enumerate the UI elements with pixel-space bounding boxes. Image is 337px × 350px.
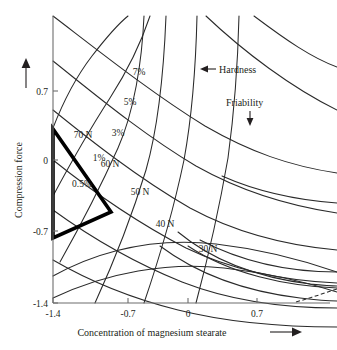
x-tick-label: -1.4 xyxy=(45,309,60,319)
contour-label-70n: 70 N xyxy=(74,130,93,140)
y-tick-label: 0 xyxy=(43,156,48,166)
y-axis-direction-arrow-head xyxy=(22,58,31,68)
hardness-contour-line xyxy=(206,16,337,110)
contour-label-30n: 30 N xyxy=(199,244,218,254)
x-axis-title: Concentration of magnesium stearate xyxy=(77,327,227,338)
y-tick-label: 0.7 xyxy=(36,87,48,97)
lower-arch-contour-group xyxy=(53,232,337,301)
y-tick-label: -1.4 xyxy=(33,299,48,309)
friability-annotation: Friability xyxy=(226,97,263,126)
hardness-contour-line xyxy=(222,176,337,203)
y-tick-labels: 0.7 0 -0.7 -1.4 xyxy=(33,87,48,309)
contour-label-3pct: 3% xyxy=(112,128,125,138)
hardness-contour-line xyxy=(254,16,337,67)
friability-contour-line xyxy=(144,16,197,303)
contour-label-1pct: 1% xyxy=(93,153,106,163)
x-axis-direction-arrow-head xyxy=(292,328,302,337)
contour-label-0p5pct: 0.5% xyxy=(72,179,92,189)
x-tick-label: 0 xyxy=(186,309,191,319)
hardness-annotation: Hardness xyxy=(200,64,256,75)
y-axis-title-group: Compression force xyxy=(13,58,30,218)
friability-contour-line xyxy=(196,16,239,303)
x-tick-label: -0.7 xyxy=(120,309,135,319)
hardness-contour-line xyxy=(53,110,337,250)
friability-contour-group xyxy=(53,16,239,303)
plot-canvas: -1.4 -0.7 0 0.7 0.7 0 -0.7 -1.4 70 N 60 … xyxy=(0,0,337,350)
contour-label-7pct: 7% xyxy=(133,67,146,77)
contour-label-5pct: 5% xyxy=(124,97,137,107)
x-tick-label: 0.7 xyxy=(251,309,263,319)
friability-annotation-label: Friability xyxy=(226,97,263,108)
x-tick-labels: -1.4 -0.7 0 0.7 xyxy=(45,309,263,319)
contour-overlay-figure: -1.4 -0.7 0 0.7 0.7 0 -0.7 -1.4 70 N 60 … xyxy=(0,0,337,350)
hardness-contour-line xyxy=(178,232,337,286)
hardness-contour-line xyxy=(53,242,337,276)
hardness-arrow-head xyxy=(200,66,208,73)
y-tick-label: -0.7 xyxy=(33,227,48,237)
contour-label-40n: 40 N xyxy=(156,219,175,229)
y-axis-title: Compression force xyxy=(13,142,24,218)
x-axis-title-group: Concentration of magnesium stearate xyxy=(77,327,302,338)
hardness-contour-line xyxy=(53,160,337,283)
hardness-annotation-label: Hardness xyxy=(219,64,256,75)
contour-label-50n: 50 N xyxy=(131,187,150,197)
hardness-contour-line xyxy=(53,260,337,327)
friability-arrow-head xyxy=(247,118,254,126)
